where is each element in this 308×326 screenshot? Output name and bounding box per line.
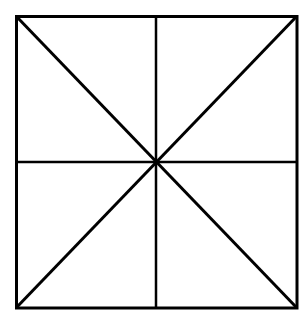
square-diagram [0,0,308,326]
